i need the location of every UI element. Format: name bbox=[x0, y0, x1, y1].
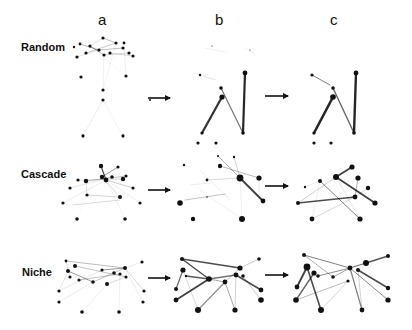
network-node bbox=[199, 74, 201, 76]
network-edge bbox=[103, 38, 116, 43]
network-node bbox=[239, 216, 245, 222]
network-edge bbox=[305, 181, 320, 187]
network-node bbox=[82, 135, 85, 138]
network-node bbox=[100, 268, 103, 271]
network-edge bbox=[176, 279, 209, 300]
network-edge bbox=[314, 97, 333, 133]
network-node bbox=[219, 94, 224, 99]
network-node bbox=[112, 271, 116, 275]
network-node bbox=[122, 135, 125, 138]
network-edge bbox=[205, 48, 225, 52]
network-node bbox=[318, 307, 324, 313]
network-edge bbox=[298, 197, 355, 203]
network-node bbox=[91, 280, 95, 284]
network-edge bbox=[366, 256, 388, 263]
network-node bbox=[302, 253, 306, 257]
network-edge bbox=[190, 183, 210, 185]
network-random-b bbox=[199, 45, 255, 134]
network-node bbox=[75, 55, 78, 58]
network-node bbox=[118, 195, 122, 199]
network-node bbox=[84, 179, 88, 183]
network-node bbox=[124, 74, 127, 77]
network-node bbox=[108, 51, 111, 54]
network-node bbox=[180, 267, 185, 272]
network-node bbox=[386, 254, 390, 258]
network-node bbox=[99, 164, 103, 168]
network-node bbox=[348, 266, 353, 271]
network-diagram-canvas bbox=[0, 0, 412, 330]
network-node bbox=[141, 300, 144, 303]
network-edge bbox=[312, 181, 320, 219]
network-node bbox=[241, 131, 245, 135]
network-node bbox=[237, 175, 244, 182]
network-node bbox=[211, 45, 212, 46]
network-node bbox=[258, 297, 264, 303]
network-edge bbox=[333, 88, 354, 133]
network-node bbox=[57, 289, 60, 292]
network-node bbox=[234, 273, 239, 278]
network-edge bbox=[99, 48, 123, 50]
network-edge bbox=[304, 255, 350, 268]
network-edge bbox=[355, 178, 358, 197]
network-node bbox=[386, 286, 390, 290]
network-node bbox=[123, 217, 127, 221]
network-node bbox=[329, 141, 332, 144]
network-node bbox=[293, 297, 299, 303]
network-node bbox=[206, 276, 212, 282]
network-node bbox=[104, 178, 109, 183]
network-node bbox=[256, 175, 261, 180]
network-random-c bbox=[310, 71, 358, 135]
network-node bbox=[217, 155, 219, 157]
network-node bbox=[191, 217, 195, 221]
network-node bbox=[66, 269, 70, 273]
network-node bbox=[68, 275, 71, 278]
network-niche-a bbox=[57, 260, 145, 314]
network-edge bbox=[82, 284, 107, 312]
network-node bbox=[138, 201, 141, 204]
network-edge bbox=[73, 200, 120, 205]
network-node bbox=[354, 71, 359, 76]
network-node bbox=[116, 165, 119, 168]
network-node bbox=[142, 289, 145, 292]
network-niche-c bbox=[293, 253, 390, 313]
network-node bbox=[73, 264, 77, 268]
network-edge bbox=[77, 166, 101, 219]
network-edge bbox=[207, 178, 240, 180]
network-node bbox=[310, 217, 315, 222]
network-node bbox=[349, 164, 354, 169]
network-node bbox=[118, 272, 121, 275]
network-node bbox=[80, 310, 84, 314]
network-node bbox=[65, 260, 68, 263]
network-node bbox=[140, 260, 143, 263]
network-node bbox=[102, 53, 105, 56]
network-edge bbox=[240, 178, 242, 219]
network-node bbox=[114, 41, 117, 44]
network-node bbox=[356, 268, 360, 272]
network-node bbox=[117, 310, 121, 314]
network-node bbox=[261, 199, 266, 204]
network-node bbox=[149, 99, 151, 101]
network-node bbox=[296, 201, 300, 205]
network-node bbox=[75, 217, 79, 221]
network-node bbox=[318, 179, 322, 183]
network-node bbox=[200, 131, 203, 134]
network-node bbox=[183, 164, 185, 166]
network-node bbox=[101, 36, 104, 39]
network-edge bbox=[103, 55, 104, 90]
network-node bbox=[241, 274, 245, 278]
network-node bbox=[333, 174, 339, 180]
network-node bbox=[214, 141, 217, 144]
network-node bbox=[73, 46, 75, 48]
transition-arrows bbox=[148, 96, 288, 278]
network-cascade-a bbox=[61, 135, 141, 221]
network-node bbox=[249, 49, 250, 50]
network-edge bbox=[63, 180, 106, 203]
network-node bbox=[77, 278, 80, 281]
network-edge bbox=[354, 73, 356, 133]
network-node bbox=[100, 175, 104, 179]
network-node bbox=[243, 71, 248, 76]
network-node bbox=[330, 94, 336, 100]
network-node bbox=[61, 201, 64, 204]
network-edge bbox=[225, 282, 235, 310]
network-node bbox=[385, 297, 390, 302]
